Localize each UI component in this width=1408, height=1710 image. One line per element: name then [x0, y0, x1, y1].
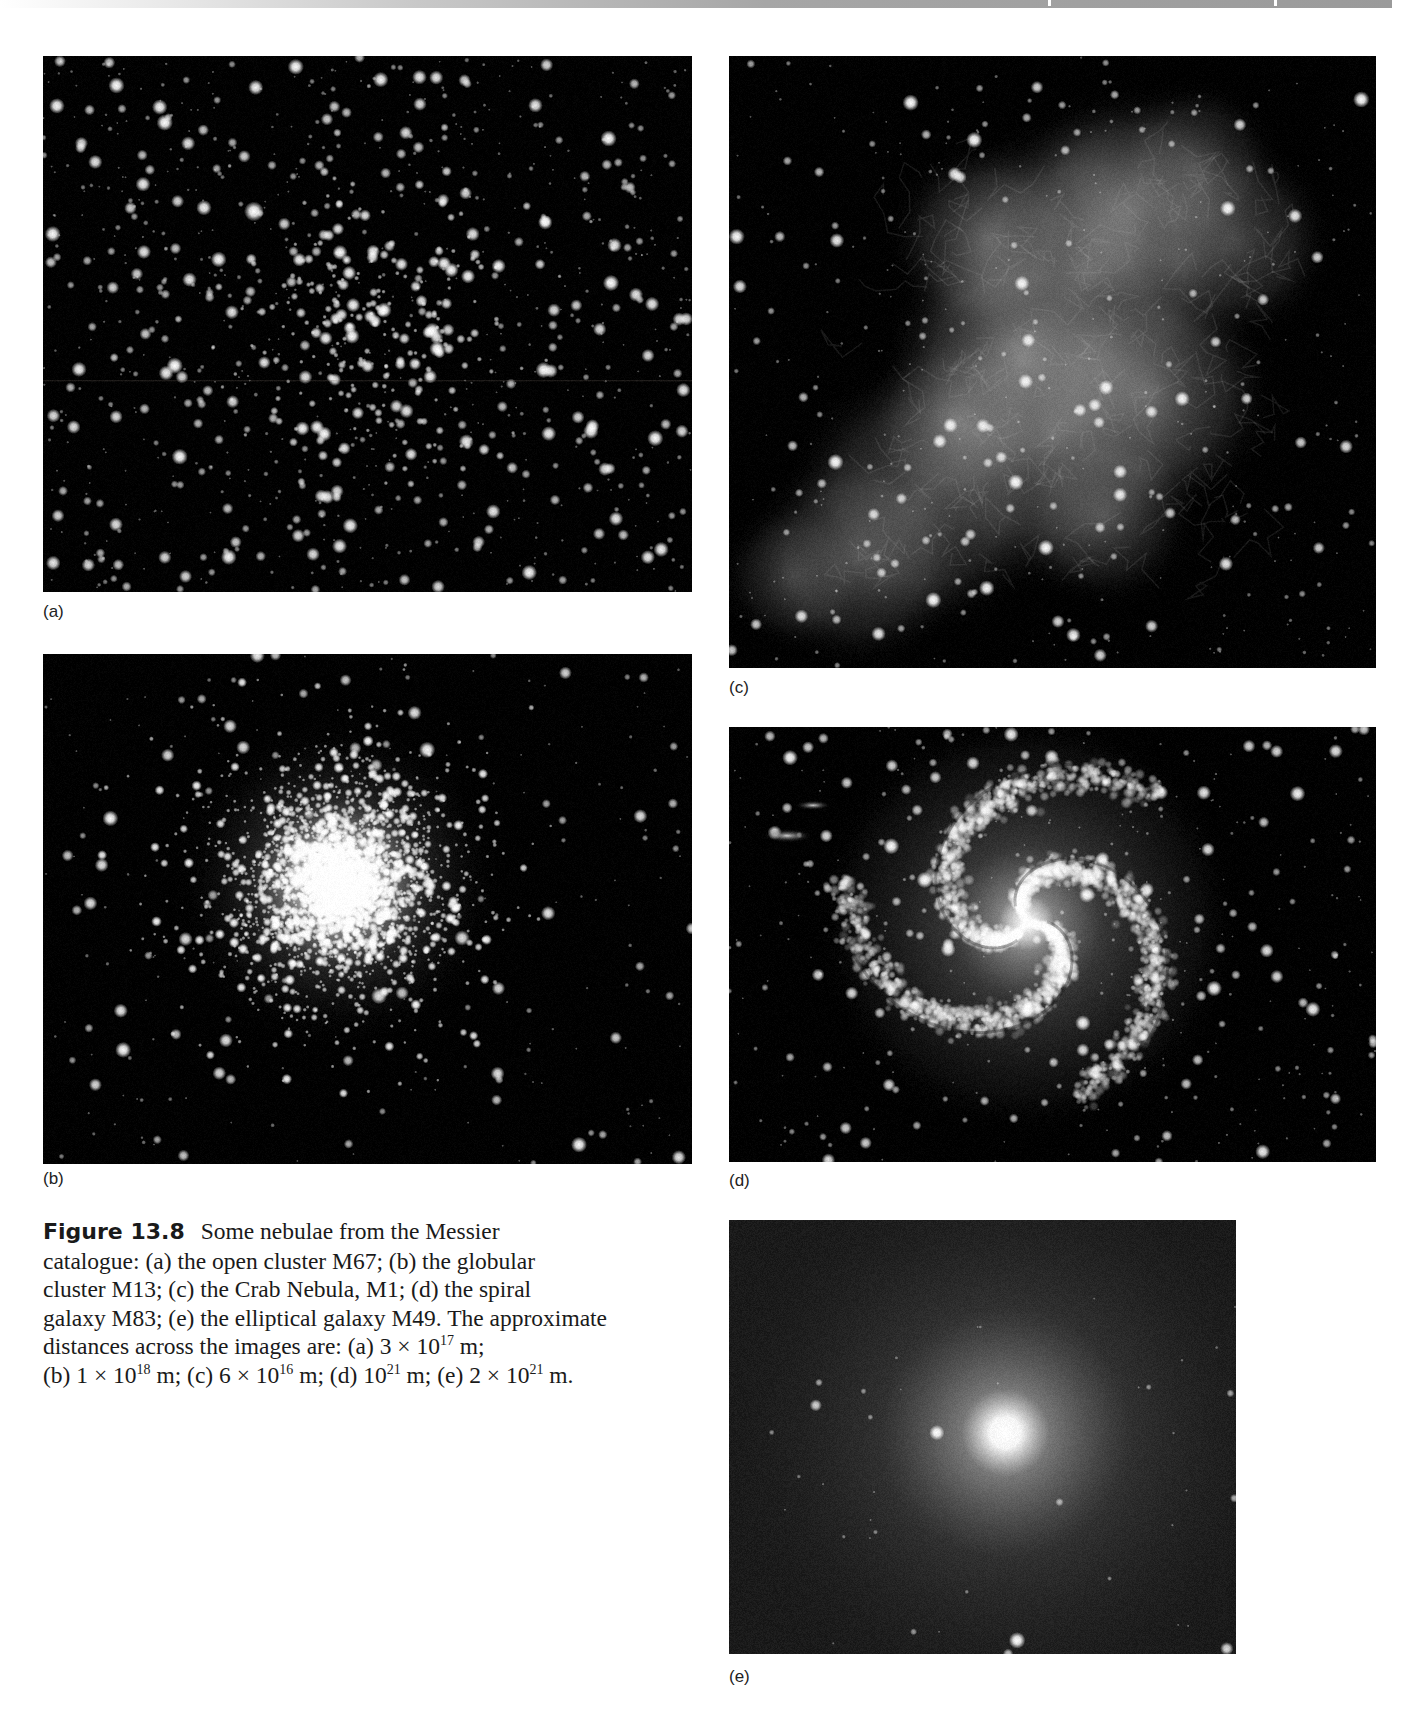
panel-label-b: (b) — [43, 1170, 64, 1187]
figure-panel-d — [729, 727, 1376, 1162]
caption-text: m; (e) 2 × 10 — [401, 1362, 530, 1388]
caption-line: catalogue: (a) the open cluster M67; (b)… — [43, 1248, 535, 1274]
exponent: 16 — [279, 1362, 293, 1377]
figure-number: Figure 13.8 — [43, 1219, 185, 1244]
caption-line: cluster M13; (c) the Crab Nebula, M1; (d… — [43, 1276, 531, 1302]
exponent: 17 — [440, 1333, 454, 1348]
caption-text: m; (d) 10 — [293, 1362, 386, 1388]
astronomical-image-e — [729, 1220, 1236, 1654]
caption-line: Some nebulae from the Messier — [201, 1218, 500, 1244]
caption-text: m; (c) 6 × 10 — [151, 1362, 280, 1388]
astronomical-image-b — [43, 654, 692, 1164]
exponent: 21 — [529, 1362, 543, 1377]
panel-label-a: (a) — [43, 603, 64, 620]
caption-line: galaxy M83; (e) the elliptical galaxy M4… — [43, 1305, 607, 1331]
page-header-bar — [0, 0, 1392, 8]
panel-label-e: (e) — [729, 1668, 750, 1685]
panel-label-c: (c) — [729, 679, 749, 696]
astronomical-image-a — [43, 56, 692, 592]
exponent: 21 — [387, 1362, 401, 1377]
panel-label-d: (d) — [729, 1172, 750, 1189]
astronomical-image-d — [729, 727, 1376, 1162]
astronomical-image-c — [729, 56, 1376, 668]
caption-line: (b) 1 × 10 — [43, 1362, 137, 1388]
caption-text: m. — [543, 1362, 573, 1388]
caption-text: m; — [454, 1333, 485, 1359]
figure-panel-e — [729, 1220, 1236, 1654]
figure-panel-b — [43, 654, 692, 1164]
exponent: 18 — [137, 1362, 151, 1377]
caption-line: distances across the images are: (a) 3 ×… — [43, 1333, 440, 1359]
figure-caption: Figure 13.8Some nebulae from the Messier… — [43, 1217, 723, 1389]
header-glyph — [1274, 0, 1277, 6]
figure-panel-c — [729, 56, 1376, 668]
figure-panel-a — [43, 56, 692, 592]
header-glyph — [1048, 0, 1051, 6]
